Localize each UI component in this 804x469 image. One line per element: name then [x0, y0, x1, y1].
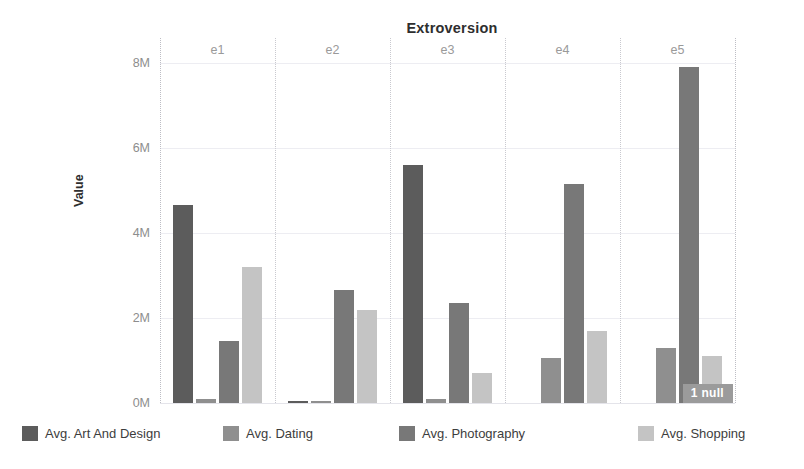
gridline [160, 403, 735, 404]
panel-separator [390, 38, 391, 403]
bar-e4-series-2[interactable] [564, 184, 584, 403]
panel-separator [735, 38, 736, 403]
y-axis-tick-label: 4M [92, 226, 150, 240]
facet-label-e2: e2 [275, 38, 390, 62]
facet-label-e5: e5 [620, 38, 735, 62]
bar-e2-series-0[interactable] [288, 401, 308, 403]
bar-e1-series-2[interactable] [219, 341, 239, 403]
legend-label: Avg. Photography [422, 426, 525, 441]
panel-separator [505, 38, 506, 403]
legend-label: Avg. Shopping [661, 426, 745, 441]
y-axis-tick-label: 0M [92, 396, 150, 410]
legend-swatch-icon [22, 426, 38, 441]
legend-item-3[interactable]: Avg. Shopping [638, 420, 745, 446]
legend-item-0[interactable]: Avg. Art And Design [22, 420, 160, 446]
bar-e4-series-1[interactable] [541, 358, 561, 403]
gridline [160, 63, 735, 64]
facet-label-e3: e3 [390, 38, 505, 62]
panel-separator [620, 38, 621, 403]
y-axis-tick-label: 2M [92, 311, 150, 325]
chart-legend: Avg. Art And DesignAvg. DatingAvg. Photo… [0, 420, 804, 454]
plot-area: 1 null [160, 63, 735, 403]
facet-label-e4: e4 [505, 38, 620, 62]
legend-swatch-icon [638, 426, 654, 441]
bar-e5-series-2[interactable] [679, 67, 699, 403]
panel-separator [160, 38, 161, 403]
bar-e3-series-2[interactable] [449, 303, 469, 403]
facet-label-e1: e1 [160, 38, 275, 62]
y-axis-tick-label: 6M [92, 141, 150, 155]
legend-swatch-icon [223, 426, 239, 441]
facet-label-band: e1e2e3e4e5 [160, 38, 735, 62]
bar-e2-series-3[interactable] [357, 310, 377, 404]
legend-item-1[interactable]: Avg. Dating [223, 420, 313, 446]
bar-e5-series-1[interactable] [656, 348, 676, 403]
legend-item-2[interactable]: Avg. Photography [399, 420, 525, 446]
bar-e1-series-0[interactable] [173, 205, 193, 403]
bar-e2-series-1[interactable] [311, 401, 331, 403]
gridline [160, 233, 735, 234]
legend-label: Avg. Dating [246, 426, 313, 441]
bar-chart: Extroversion e1e2e3e4e5 0M2M4M6M8M Value… [0, 0, 804, 469]
bar-e3-series-1[interactable] [426, 399, 446, 403]
chart-title: Extroversion [357, 20, 547, 36]
bar-e3-series-3[interactable] [472, 373, 492, 403]
bar-e3-series-0[interactable] [403, 165, 423, 403]
y-axis-tick-label: 8M [92, 56, 150, 70]
panel-separator [275, 38, 276, 403]
null-count-badge[interactable]: 1 null [683, 384, 733, 403]
legend-swatch-icon [399, 426, 415, 441]
gridline [160, 148, 735, 149]
bar-e4-series-3[interactable] [587, 331, 607, 403]
y-axis-ticks: 0M2M4M6M8M [88, 63, 150, 403]
legend-label: Avg. Art And Design [45, 426, 160, 441]
bar-e1-series-3[interactable] [242, 267, 262, 403]
bar-e2-series-2[interactable] [334, 290, 354, 403]
bar-e1-series-1[interactable] [196, 399, 216, 403]
y-axis-title: Value [72, 174, 86, 207]
